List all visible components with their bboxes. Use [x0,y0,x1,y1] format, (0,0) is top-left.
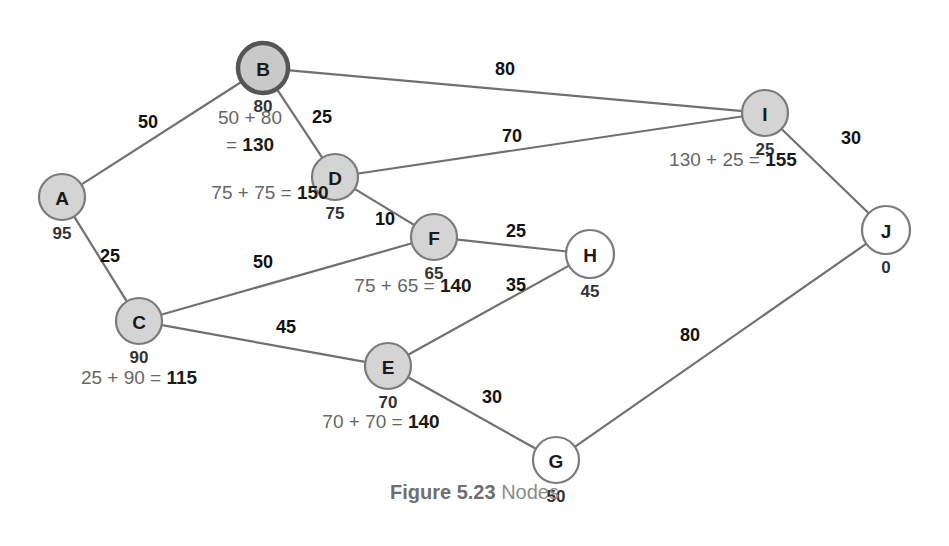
calc-e-line1: 70 + 70 = 140 [322,411,439,432]
node-j-label: J [881,221,892,242]
edge-weight-i-j: 30 [841,128,861,148]
node-a-distance: 95 [53,224,72,243]
node-a-label: A [55,188,69,209]
edge-weight-c-f: 50 [253,252,273,272]
calc-b-line1: 50 + 80 [218,107,282,128]
edge-a-b [81,81,243,185]
graph-diagram: A95B80C90D75E70F65G50H45I25J0 5025802570… [0,0,949,546]
figure-container: A95B80C90D75E70F65G50H45I25J0 5025802570… [0,0,949,546]
calc-c-line1: 25 + 90 = 115 [81,367,198,388]
node-j-distance: 0 [881,258,890,277]
node-a[interactable]: A95 [39,174,85,243]
edge-weight-f-h: 25 [506,221,526,241]
edge-c-e [161,325,367,362]
node-e[interactable]: E70 [365,343,411,412]
figure-caption-label: Figure 5.23 [390,481,496,503]
node-c-label: C [132,312,146,333]
node-c[interactable]: C90 [116,298,162,367]
node-h[interactable]: H45 [566,230,614,301]
edge-g-j [574,243,867,447]
node-d-distance: 75 [326,204,345,223]
node-e-distance: 70 [379,393,398,412]
calc-i-line1: 130 + 25 = 155 [669,149,797,170]
edge-weight-b-d: 25 [312,107,332,127]
figure-caption-text: Nodes [501,481,559,503]
edge-weight-c-e: 45 [276,317,296,337]
node-i-label: I [762,104,767,125]
node-g-label: G [549,451,564,472]
edge-weight-b-i: 80 [495,59,515,79]
node-b-label: B [256,59,270,80]
node-f-label: F [428,228,440,249]
node-c-distance: 90 [130,348,149,367]
calc-f-line1: 75 + 65 = 140 [354,275,471,296]
edge-weight-d-f: 10 [375,209,395,229]
node-h-distance: 45 [581,282,600,301]
calc-b-line2: = 130 [226,134,274,155]
node-e-label: E [382,357,395,378]
edge-weight-e-g: 30 [482,387,502,407]
edge-weight-a-c: 25 [100,246,120,266]
edge-weight-d-i: 70 [502,126,522,146]
calc-d-line1: 75 + 75 = 150 [211,182,328,203]
nodes-group: A95B80C90D75E70F65G50H45I25J0 [39,43,910,506]
node-h-label: H [583,245,597,266]
figure-caption: Figure 5.23 Nodes [0,481,949,504]
edge-weight-e-h: 35 [506,275,526,295]
node-f[interactable]: F65 [411,214,457,283]
node-j[interactable]: J0 [862,206,910,277]
node-b[interactable]: B80 [238,43,288,116]
edge-weight-a-b: 50 [138,112,158,132]
edge-f-h [456,239,567,251]
node-d-label: D [328,168,342,189]
edge-weight-g-j: 80 [680,325,700,345]
